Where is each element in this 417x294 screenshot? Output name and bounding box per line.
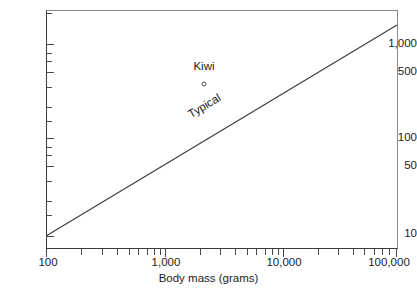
x-tick-minor-9000 xyxy=(278,249,279,255)
y-tick-minor-30 xyxy=(46,201,52,202)
x-tick-label-1000: 1,000 xyxy=(152,256,181,268)
x-tick-minor-900 xyxy=(160,249,161,255)
x-tick-minor-80000 xyxy=(389,249,390,255)
y-tick-minor-700 xyxy=(46,61,52,62)
x-tick-minor-800 xyxy=(154,249,155,255)
y-tick-minor-300 xyxy=(46,107,52,108)
x-tick-label-10000: 10,000 xyxy=(266,256,301,268)
kiwi-data-point[interactable] xyxy=(202,82,207,87)
x-tick-minor-7000 xyxy=(265,249,266,255)
x-tick-minor-200 xyxy=(81,249,82,255)
x-tick-minor-5000 xyxy=(247,249,248,255)
x-tick-minor-60000 xyxy=(374,249,375,255)
y-tick-minor-40 xyxy=(46,181,52,182)
y-tick-label-500: 500 xyxy=(377,66,417,78)
x-tick-minor-4000 xyxy=(235,249,236,255)
x-tick-minor-70000 xyxy=(382,249,383,255)
y-tick-100 xyxy=(46,138,54,139)
y-tick-minor-2000 xyxy=(46,13,52,14)
x-tick-minor-400 xyxy=(117,249,118,255)
y-tick-label-10: 10 xyxy=(377,228,417,240)
x-tick-label-100: 100 xyxy=(38,256,57,268)
y-tick-minor-200 xyxy=(46,121,52,122)
x-tick-label-100000: 100,000 xyxy=(368,256,410,268)
y-tick-minor-20 xyxy=(46,215,52,216)
y-tick-minor-70 xyxy=(46,155,52,156)
y-tick-minor-400 xyxy=(46,87,52,88)
x-tick-minor-2000 xyxy=(200,249,201,255)
y-tick-label-100: 100 xyxy=(377,132,417,144)
x-tick-minor-30000 xyxy=(338,249,339,255)
y-tick-50 xyxy=(46,166,54,167)
x-tick-minor-500 xyxy=(129,249,130,255)
y-tick-minor-800 xyxy=(46,53,52,54)
x-tick-minor-8000 xyxy=(272,249,273,255)
x-tick-minor-600 xyxy=(138,249,139,255)
x-axis-title: Body mass (grams) xyxy=(0,272,417,284)
y-tick-label-50: 50 xyxy=(377,160,417,172)
y-tick-label-1000: 1,000 xyxy=(377,38,417,50)
y-tick-minor-80 xyxy=(46,147,52,148)
y-tick-10 xyxy=(46,236,54,237)
x-tick-minor-20000 xyxy=(318,249,319,255)
chart-root: Kiwi Typical 1,000 500 100 50 10 xyxy=(0,0,417,294)
kiwi-point-label: Kiwi xyxy=(193,60,214,72)
plot-area xyxy=(46,10,398,249)
x-tick-minor-40000 xyxy=(353,249,354,255)
y-tick-500 xyxy=(46,72,54,73)
x-tick-minor-700 xyxy=(147,249,148,255)
y-tick-1000 xyxy=(46,44,54,45)
x-tick-minor-6000 xyxy=(256,249,257,255)
x-tick-minor-300 xyxy=(102,249,103,255)
x-tick-minor-3000 xyxy=(220,249,221,255)
x-tick-minor-50000 xyxy=(364,249,365,255)
